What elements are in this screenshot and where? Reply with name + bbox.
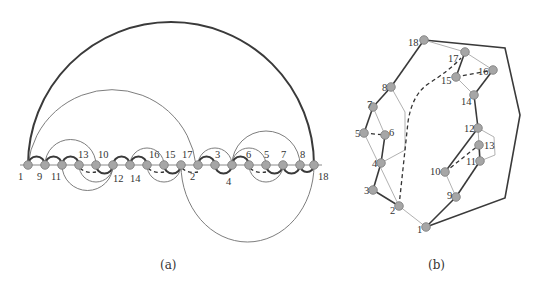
glabel-12: 12 [464, 123, 475, 134]
gnode-12 [474, 124, 483, 133]
gnode-11 [476, 157, 485, 166]
glabel-3: 3 [364, 185, 369, 196]
gnode-6 [381, 131, 390, 140]
label-2: 2 [190, 171, 195, 182]
gnode-18 [420, 36, 429, 45]
node-8 [296, 161, 305, 170]
label-15: 15 [165, 149, 176, 160]
node-4 [228, 161, 237, 170]
glabel-18: 18 [408, 37, 419, 48]
glabel-6: 6 [389, 127, 394, 138]
node-10 [92, 161, 101, 170]
label-1: 1 [18, 171, 23, 182]
node-18 [310, 161, 319, 170]
label-9: 9 [37, 171, 42, 182]
graph-nodes [360, 36, 498, 232]
label-7: 7 [281, 149, 286, 160]
node-17 [177, 161, 186, 170]
gnode-17 [461, 48, 470, 57]
glabel-14: 14 [461, 96, 472, 107]
glabel-1: 1 [417, 224, 422, 235]
label-8: 8 [300, 149, 305, 160]
gnode-2 [395, 202, 404, 211]
node-14 [126, 161, 135, 170]
glabel-10: 10 [430, 166, 441, 177]
label-16: 16 [149, 149, 160, 160]
node-13 [75, 161, 84, 170]
label-11: 11 [51, 171, 61, 182]
node-2 [194, 161, 203, 170]
label-10: 10 [98, 149, 109, 160]
gnode-13 [475, 141, 484, 150]
node-9 [41, 161, 50, 170]
node-15 [160, 161, 169, 170]
thin-arcs-below [62, 165, 314, 242]
node-7 [279, 161, 288, 170]
gnode-4 [377, 159, 386, 168]
label-6: 6 [246, 149, 251, 160]
glabel-13: 13 [484, 140, 495, 151]
glabel-4: 4 [372, 158, 378, 169]
caption-a: (a) [160, 258, 177, 272]
node-5 [262, 161, 271, 170]
gnode-10 [441, 168, 450, 177]
glabel-5: 5 [355, 128, 360, 139]
gnode-1 [422, 223, 431, 232]
glabel-8: 8 [382, 82, 387, 93]
glabel-15: 15 [441, 75, 452, 86]
label-5: 5 [264, 149, 269, 160]
node-1 [24, 161, 33, 170]
label-4: 4 [226, 176, 232, 187]
node-6 [245, 161, 254, 170]
glabel-9: 9 [447, 190, 452, 201]
gnode-9 [452, 193, 461, 202]
node-16 [143, 161, 152, 170]
gnode-8 [387, 83, 396, 92]
node-11 [58, 161, 67, 170]
glabel-11: 11 [466, 156, 476, 167]
glabel-7: 7 [367, 99, 372, 110]
gnode-16 [489, 66, 498, 75]
label-3: 3 [215, 149, 220, 160]
figure: 1 9 11 13 10 12 14 16 15 17 2 3 4 6 5 7 … [0, 0, 535, 287]
node-3 [211, 161, 220, 170]
graph-labels: 18 17 16 15 8 7 14 5 6 12 13 11 4 10 3 9… [355, 37, 495, 235]
label-14: 14 [130, 173, 141, 184]
gnode-3 [369, 186, 378, 195]
label-13: 13 [78, 149, 89, 160]
glabel-2: 2 [390, 205, 395, 216]
arc-1-18 [28, 22, 314, 165]
gnode-15 [452, 73, 461, 82]
label-17: 17 [182, 149, 193, 160]
glabel-17: 17 [448, 53, 459, 64]
node-12 [109, 161, 118, 170]
label-12: 12 [113, 173, 124, 184]
label-18: 18 [318, 171, 329, 182]
panel-a-arc-diagram: 1 9 11 13 10 12 14 16 15 17 2 3 4 6 5 7 … [18, 22, 329, 272]
gnode-5 [360, 129, 369, 138]
panel-b-planar-graph: 18 17 16 15 8 7 14 5 6 12 13 11 4 10 3 9… [355, 36, 520, 272]
glabel-16: 16 [478, 66, 489, 77]
caption-b: (b) [428, 258, 445, 272]
